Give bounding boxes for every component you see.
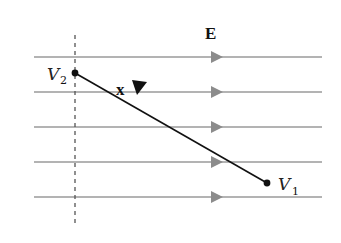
field-arrow-icon [211, 121, 223, 133]
displacement-label: x [116, 80, 125, 99]
v1-subscript: 1 [292, 185, 299, 198]
point-v1 [264, 180, 271, 187]
displacement-line [75, 73, 267, 183]
v2-subscript: 2 [60, 74, 67, 87]
field-arrow-icon [211, 156, 223, 168]
field-arrow-icon [211, 86, 223, 98]
field-arrow-icon [211, 191, 223, 203]
field-label: E [205, 24, 216, 43]
v1-label: V [278, 174, 292, 194]
field-arrows [211, 51, 223, 203]
v2-label: V [47, 64, 61, 84]
point-v2 [72, 70, 79, 77]
displacement-arrow-icon [132, 80, 147, 95]
field-arrow-icon [211, 51, 223, 63]
electric-field-diagram: E x V 2 V 1 [0, 0, 341, 243]
